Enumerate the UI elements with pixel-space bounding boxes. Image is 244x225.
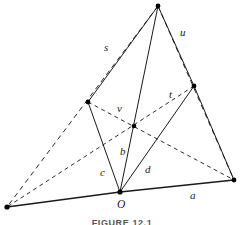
vector-a-origin-to-bottom-right — [120, 180, 234, 192]
bottom-left-vertex — [4, 204, 9, 209]
segment-right-mid-to-bottom-right — [194, 86, 234, 180]
solid-edge-group — [88, 6, 234, 180]
label-v: v — [117, 103, 122, 114]
diagonal-t-right-mid-to-bottom-left — [7, 86, 194, 207]
label-u: u — [180, 27, 186, 38]
label-a: a — [190, 190, 196, 201]
left-middle-vertex — [86, 100, 91, 105]
segment-left-mid-to-apex — [88, 6, 158, 102]
label-origin: O — [117, 199, 125, 211]
apex-vertex — [156, 4, 161, 9]
figure-canvas — [0, 0, 244, 225]
label-d: d — [145, 164, 151, 175]
bottom-right-vertex — [232, 178, 237, 183]
baseline-origin-to-bottom-left — [7, 192, 120, 207]
geometry-figure: s u t v b c d a O FIGURE 12.1 — [0, 0, 244, 225]
label-t: t — [169, 89, 172, 100]
right-middle-vertex — [192, 84, 197, 89]
center-intersection — [132, 124, 137, 129]
label-b: b — [120, 146, 126, 157]
vector-c-origin-to-left-mid — [88, 102, 120, 192]
segment-right-mid-to-apex — [158, 6, 194, 86]
origin-vertex — [117, 189, 122, 194]
outer-edge-s-apex-to-bottom-left — [7, 6, 158, 207]
label-s: s — [104, 42, 108, 53]
label-c: c — [100, 167, 105, 178]
figure-caption: FIGURE 12.1 — [0, 218, 244, 225]
